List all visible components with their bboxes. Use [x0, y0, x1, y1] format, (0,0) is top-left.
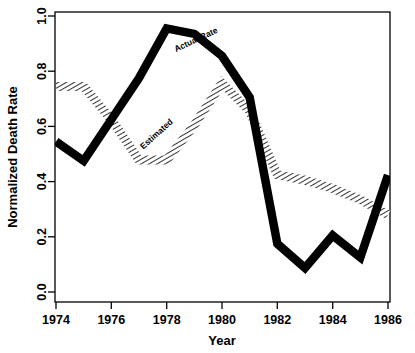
x-tick-label: 1974	[42, 313, 70, 327]
x-tick-label: 1982	[263, 313, 291, 327]
y-tick-label: 0.4	[35, 173, 49, 190]
y-axis-ticks	[48, 16, 55, 292]
x-tick-label: 1978	[153, 313, 181, 327]
x-tick-label: 1984	[319, 313, 347, 327]
x-tick-label: 1976	[97, 313, 125, 327]
series-line-estimated	[56, 83, 388, 215]
chart-figure: 0.0 0.2 0.4 0.6 0.8 1.0 1974 1976 1978 1…	[0, 0, 415, 353]
x-axis-title: Year	[208, 333, 235, 348]
y-tick-label: 1.0	[35, 7, 49, 24]
x-tick-labels: 1974 1976 1978 1980 1982 1984 1986	[42, 313, 402, 327]
y-axis-title: Normalized Death Rate	[5, 86, 20, 228]
y-tick-label: 0.2	[35, 228, 49, 245]
y-tick-label: 0.8	[35, 62, 49, 79]
chart-plot-area: 0.0 0.2 0.4 0.6 0.8 1.0 1974 1976 1978 1…	[0, 0, 415, 353]
x-axis-ticks	[56, 302, 388, 309]
y-tick-labels: 0.0 0.2 0.4 0.6 0.8 1.0	[35, 7, 49, 300]
y-tick-label: 0.0	[35, 283, 49, 300]
x-tick-label: 1986	[374, 313, 402, 327]
x-tick-label: 1980	[208, 313, 236, 327]
series-line-actual	[56, 28, 388, 268]
y-tick-label: 0.6	[35, 118, 49, 135]
series-annotation-estimated: Estimated	[138, 117, 175, 152]
